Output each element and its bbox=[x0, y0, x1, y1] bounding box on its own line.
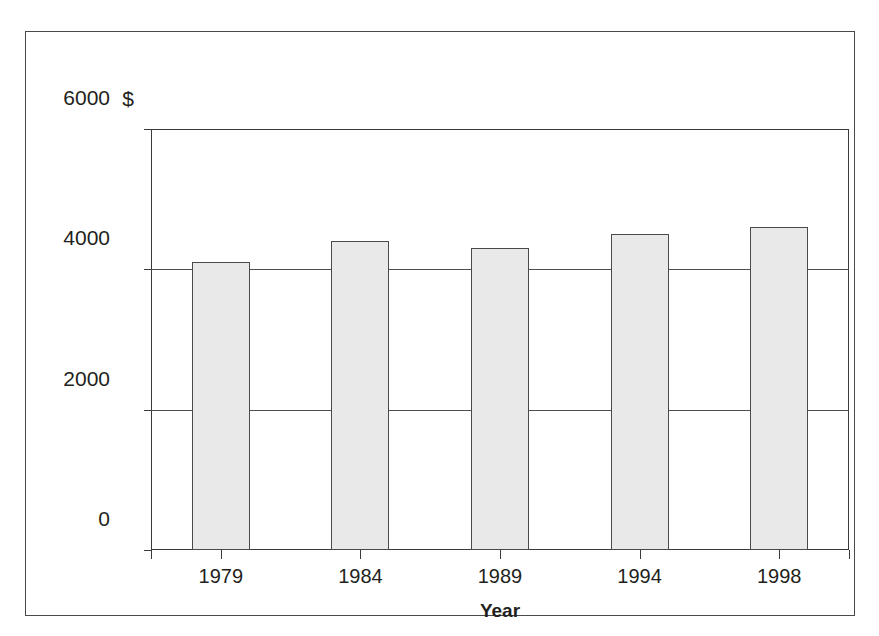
x-axis-tick-label: 1989 bbox=[450, 566, 550, 586]
bar bbox=[611, 234, 669, 550]
y-axis-tick bbox=[144, 129, 151, 130]
bar bbox=[331, 241, 389, 550]
y-axis-tick bbox=[144, 410, 151, 411]
x-axis-tick-label: 1979 bbox=[171, 566, 271, 586]
y-axis-line bbox=[151, 129, 152, 550]
plot-top-border bbox=[151, 129, 849, 130]
x-axis-tick bbox=[360, 550, 361, 559]
x-axis-tick-label: 1998 bbox=[729, 566, 829, 586]
x-axis-tick bbox=[849, 550, 850, 559]
x-axis-zone: 19791984198919941998 Year bbox=[151, 550, 849, 636]
chart-outer-frame: $ 0200040006000 19791984198919941998 Yea… bbox=[25, 31, 855, 616]
x-axis-tick bbox=[151, 550, 152, 559]
y-axis-tick-label: 0 bbox=[98, 508, 110, 529]
y-axis-tick-label: 2000 bbox=[63, 368, 110, 389]
x-axis-tick bbox=[221, 550, 222, 559]
bar-chart-figure: $ 0200040006000 19791984198919941998 Yea… bbox=[0, 0, 879, 636]
x-axis-title: Year bbox=[151, 601, 849, 620]
x-axis-tick-label: 1984 bbox=[310, 566, 410, 586]
plot-area bbox=[151, 129, 849, 550]
x-axis-tick bbox=[779, 550, 780, 559]
y-axis-tick-label: 6000 bbox=[63, 87, 110, 108]
y-axis-tick bbox=[144, 550, 151, 551]
x-axis-tick bbox=[640, 550, 641, 559]
y-axis-unit-label: $ bbox=[114, 88, 142, 109]
x-axis-tick bbox=[500, 550, 501, 559]
y-axis-tick-label: 4000 bbox=[63, 227, 110, 248]
y-axis-tick bbox=[144, 269, 151, 270]
plot-right-border bbox=[848, 129, 849, 550]
bar bbox=[192, 262, 250, 550]
x-axis-tick-label: 1994 bbox=[590, 566, 690, 586]
bar bbox=[471, 248, 529, 550]
bar bbox=[750, 227, 808, 550]
